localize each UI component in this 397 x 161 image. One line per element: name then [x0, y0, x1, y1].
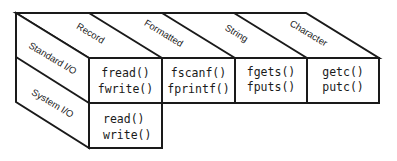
- function-name: fread(): [101, 66, 149, 80]
- function-name: fgets(): [247, 65, 295, 79]
- function-name: getc(): [322, 65, 364, 79]
- function-name: fprintf(): [167, 82, 229, 96]
- function-name: putc(): [322, 80, 364, 94]
- io-functions-diagram: Record Formatted String Character Standa…: [0, 0, 397, 161]
- function-name: read(): [103, 112, 145, 126]
- cell-standard-string: fgets() fputs(): [247, 65, 295, 94]
- function-name: fscanf(): [171, 66, 226, 80]
- function-name: write(): [103, 128, 151, 142]
- function-name: fwrite(): [98, 82, 153, 96]
- function-name: fputs(): [247, 80, 295, 94]
- cell-standard-character: getc() putc(): [322, 65, 364, 94]
